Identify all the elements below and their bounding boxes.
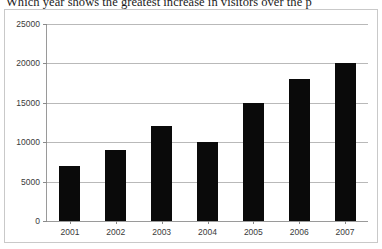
x-axis-label: 2003 xyxy=(152,227,171,237)
x-axis-tick xyxy=(70,221,71,224)
x-axis-label: 2001 xyxy=(60,227,79,237)
bar-2005 xyxy=(243,103,264,221)
x-axis-label: 2006 xyxy=(290,227,309,237)
bar-chart: 0500010000150002000025000 20012002200320… xyxy=(4,9,378,243)
x-axis-tick xyxy=(299,221,300,224)
x-axis-label: 2002 xyxy=(106,227,125,237)
y-axis-label: 0 xyxy=(35,216,40,226)
bar-2004 xyxy=(197,142,218,221)
x-axis-label: 2007 xyxy=(336,227,355,237)
question-title: Which year shows the greatest increase i… xyxy=(6,0,382,9)
y-axis-label: 25000 xyxy=(16,19,40,29)
plot-area: 0500010000150002000025000 20012002200320… xyxy=(46,24,368,222)
x-axis-label: 2005 xyxy=(244,227,263,237)
y-axis-label: 20000 xyxy=(16,58,40,68)
bar-2007 xyxy=(335,63,356,221)
bar-2001 xyxy=(59,166,80,221)
y-axis-tick xyxy=(43,221,47,222)
x-axis-tick xyxy=(116,221,117,224)
x-axis-label: 2004 xyxy=(198,227,217,237)
x-axis-tick xyxy=(208,221,209,224)
bar-2006 xyxy=(289,79,310,221)
bars-layer xyxy=(47,24,368,221)
y-axis-label: 10000 xyxy=(16,137,40,147)
bar-2002 xyxy=(105,150,126,221)
bar-2003 xyxy=(151,126,172,221)
x-axis-tick xyxy=(253,221,254,224)
y-axis-label: 5000 xyxy=(21,177,40,187)
y-axis-label: 15000 xyxy=(16,98,40,108)
x-axis-tick xyxy=(345,221,346,224)
x-axis-tick xyxy=(162,221,163,224)
